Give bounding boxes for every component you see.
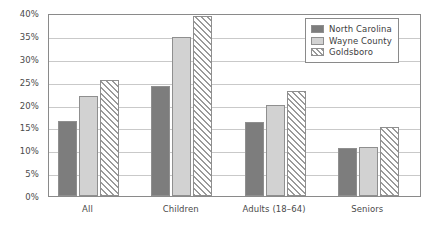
bar [58, 121, 77, 196]
legend-item-wayne-county: Wayne County [311, 35, 392, 46]
x-axis-tick-label: All [82, 204, 93, 214]
legend-item-goldsboro: Goldsboro [311, 47, 392, 58]
y-axis-tick-label: 20% [20, 101, 39, 111]
bar [287, 91, 306, 196]
bar [266, 105, 285, 196]
y-axis-tick-label: 5% [25, 169, 39, 179]
bar-group [142, 15, 235, 196]
x-axis-tick-label: Adults (18–64) [242, 204, 305, 214]
legend-label-goldsboro: Goldsboro [329, 47, 373, 57]
legend-item-north-carolina: North Carolina [311, 24, 392, 35]
legend-label-wayne-county: Wayne County [329, 36, 392, 46]
bar [193, 16, 212, 196]
y-axis-tick-label: 40% [20, 9, 39, 19]
bar [338, 148, 357, 196]
bar-chart: 0%5%10%15%20%25%30%35%40% AllChildrenAdu… [0, 0, 433, 237]
bar [151, 86, 170, 196]
legend-label-north-carolina: North Carolina [329, 24, 392, 34]
y-axis: 0%5%10%15%20%25%30%35%40% [0, 14, 44, 197]
x-axis-tick-label: Seniors [351, 204, 383, 214]
y-axis-tick-label: 30% [20, 55, 39, 65]
chart-legend: North Carolina Wayne County Goldsboro [305, 18, 399, 63]
x-axis: AllChildrenAdults (18–64)Seniors [48, 198, 421, 228]
legend-swatch-icon-north-carolina [311, 25, 324, 33]
y-axis-tick-label: 35% [20, 32, 39, 42]
bar [79, 96, 98, 196]
legend-swatch-icon-goldsboro [311, 48, 324, 56]
bar [100, 80, 119, 196]
legend-swatch-icon-wayne-county [311, 37, 324, 45]
bar [245, 122, 264, 196]
x-axis-tick-label: Children [163, 204, 199, 214]
y-axis-tick-label: 10% [20, 146, 39, 156]
bar [359, 147, 378, 196]
bar-group [49, 15, 142, 196]
bar [380, 127, 399, 196]
y-axis-tick-label: 0% [25, 192, 39, 202]
y-axis-tick-label: 25% [20, 78, 39, 88]
y-axis-tick-label: 15% [20, 123, 39, 133]
bar [172, 37, 191, 196]
